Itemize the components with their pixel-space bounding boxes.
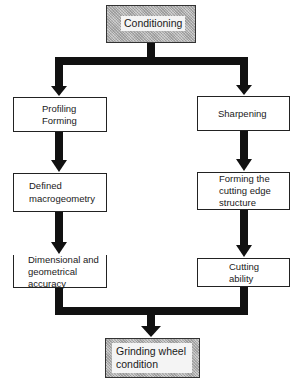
node-conditioning: Conditioning [106,5,196,43]
node-forming-cutting-edge-line1: Forming the [219,173,270,185]
node-defined-macrogeometry: Defined macrogeometry [13,173,107,212]
node-defined-macrogeometry-line2: macrogeometry [29,193,95,205]
node-forming-cutting-edge: Forming the cutting edge structure [197,172,290,210]
node-cutting-ability-line1: Cutting [229,261,259,273]
node-grinding-wheel-condition: Grinding wheel condition [105,338,200,378]
node-sharpening-label: Sharpening [218,108,267,120]
arrowhead-to-sharpening [236,85,252,95]
node-forming-cutting-edge-line3: structure [219,197,256,209]
node-grinding-wheel-condition-label: Grinding wheel condition [112,343,192,373]
node-sharpening: Sharpening [197,96,290,131]
left-stem-2 [55,212,63,244]
arrowhead-to-cutting-edge [236,159,252,171]
node-grinding-wheel-condition-line2: condition [116,358,188,371]
node-defined-macrogeometry-line1: Defined [29,180,62,192]
left-stem-1 [55,131,63,162]
arrowhead-to-macrogeometry [51,160,67,172]
right-stem-1 [240,131,248,161]
top-split-bar [55,57,248,65]
arrowhead-to-accuracy [51,242,67,254]
node-profiling-forming: Profiling Forming [13,97,107,132]
arrowhead-to-cutting-ability [236,245,252,257]
right-drop [240,57,248,86]
arrowhead-to-profiling [51,86,67,96]
node-cutting-ability-line2: ability [229,273,253,285]
left-drop [55,57,63,87]
node-grinding-wheel-condition-line1: Grinding wheel [116,345,188,358]
node-dimensional-accuracy-line2: geometrical [28,266,77,278]
node-profiling-forming-line2: Forming [42,115,77,127]
node-dimensional-accuracy: Dimensional and geometrical accuracy [13,255,107,288]
node-cutting-ability: Cutting ability [197,258,290,287]
arrowhead-to-result [141,326,161,337]
right-stem-2 [240,210,248,246]
node-dimensional-accuracy-line3: accuracy [28,278,66,290]
result-stem [147,307,155,327]
node-forming-cutting-edge-line2: cutting edge [219,185,271,197]
node-dimensional-accuracy-line1: Dimensional and [28,254,99,266]
node-conditioning-label: Conditioning [121,16,185,31]
node-profiling-forming-line1: Profiling [42,103,76,115]
flowchart-canvas: Conditioning Profiling Forming Defined m… [0,0,296,385]
